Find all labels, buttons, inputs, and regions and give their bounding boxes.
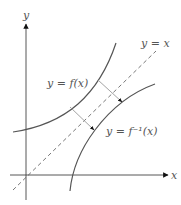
y-axis-label: y — [22, 9, 30, 22]
identity-line-label: y = x — [140, 37, 170, 50]
reflection-arrow-lower — [70, 107, 94, 130]
x-axis-label: x — [171, 169, 178, 182]
f-inverse-curve-label: y = f⁻¹(x) — [105, 125, 158, 138]
inverse-function-diagram: y x y = x y = f(x) y = f⁻¹(x) — [0, 0, 181, 205]
reflection-arrow-upper — [98, 80, 122, 102]
f-curve-label: y = f(x) — [46, 77, 88, 90]
